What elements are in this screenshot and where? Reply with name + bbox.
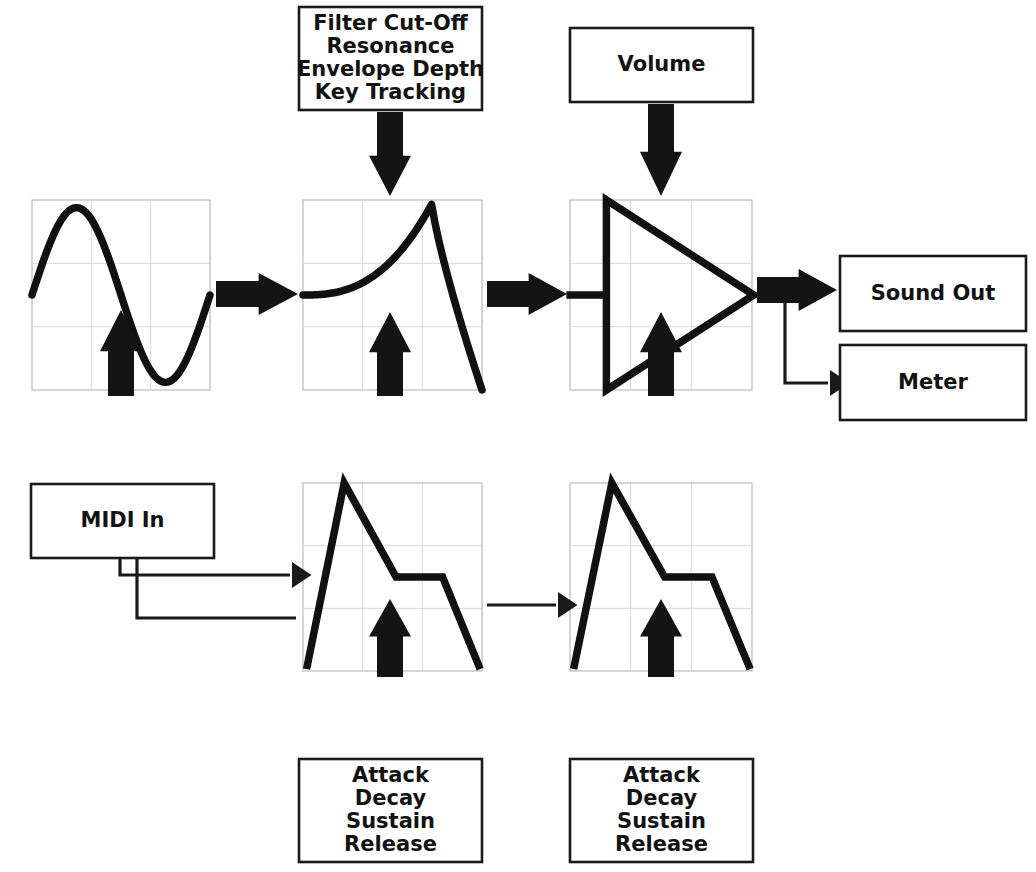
box-env2-params: AttackDecaySustainRelease <box>570 759 753 862</box>
arrow-volume-to-amp <box>640 104 682 196</box>
box-sound-out: Sound Out <box>840 256 1026 331</box>
arrow-filterparams-to-filter <box>369 112 411 196</box>
label-boxes-layer: Filter Cut-OffResonanceEnvelope DepthKey… <box>31 7 1026 862</box>
waveform-panels-layer <box>32 200 754 671</box>
diagram-canvas: Filter Cut-OffResonanceEnvelope DepthKey… <box>0 0 1036 872</box>
box-midi-in: MIDI In <box>31 484 214 558</box>
box-meter: Meter <box>840 345 1026 420</box>
box-filter-params: Filter Cut-OffResonanceEnvelope DepthKey… <box>297 7 484 110</box>
midi-to-env2-line-path <box>137 559 296 618</box>
midi-to-env1-line-path <box>120 559 290 575</box>
env1-to-env2-line <box>487 592 578 618</box>
arrow-osc-to-filter <box>216 273 298 315</box>
box-meter-label: Meter <box>898 370 968 394</box>
synth-signal-flow-diagram: Filter Cut-OffResonanceEnvelope DepthKey… <box>0 0 1036 872</box>
box-env1-params: AttackDecaySustainRelease <box>299 759 482 862</box>
midi-to-env1-line <box>120 559 312 588</box>
box-env2-params-label: AttackDecaySustainRelease <box>615 763 708 856</box>
box-filter-params-label: Filter Cut-OffResonanceEnvelope DepthKey… <box>297 11 484 104</box>
amp-to-meter-line-path <box>785 303 828 383</box>
midi-to-env2-line <box>137 559 296 618</box>
arrow-filter-to-amp <box>487 273 567 315</box>
box-env1-params-label: AttackDecaySustainRelease <box>344 763 437 856</box>
box-sound-out-label: Sound Out <box>871 281 996 305</box>
box-volume: Volume <box>570 28 753 102</box>
arrow-amp-to-soundout <box>757 269 837 311</box>
box-midi-in-label: MIDI In <box>80 508 164 532</box>
box-volume-label: Volume <box>618 52 706 76</box>
